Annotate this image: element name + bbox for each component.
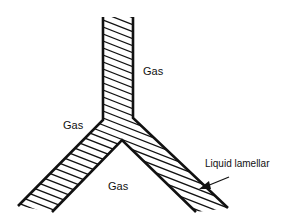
gas-label-bottom: Gas	[108, 181, 128, 192]
lamella-diagram: Gas Gas Gas Liquid lamellar	[0, 0, 290, 221]
gas-label-top-right: Gas	[143, 66, 163, 77]
hatching	[0, 0, 290, 221]
right-outer-edge	[133, 17, 228, 208]
lamella-junction-figure	[0, 0, 290, 221]
gas-label-left: Gas	[63, 120, 83, 131]
liquid-lamella-label: Liquid lamellar	[205, 159, 269, 169]
